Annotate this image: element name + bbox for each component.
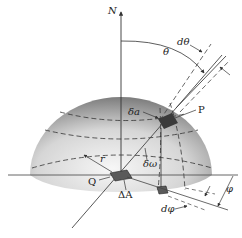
label-point-q: Q bbox=[88, 176, 96, 187]
label-north: N bbox=[107, 5, 118, 16]
label-delta-a: δa bbox=[128, 106, 140, 117]
label-delta-A: ΔA bbox=[118, 189, 133, 200]
d-theta-pointer-2 bbox=[220, 67, 230, 75]
label-d-phi: dφ bbox=[161, 203, 174, 214]
label-d-theta: dθ bbox=[177, 36, 189, 47]
azimuth-dashed-2 bbox=[185, 188, 215, 194]
label-phi: φ bbox=[226, 183, 233, 194]
label-theta: θ bbox=[163, 46, 169, 57]
d-phi-pointer bbox=[175, 206, 187, 209]
phi-tick-2 bbox=[205, 186, 210, 196]
hemisphere-diagram: N θ dθ δa P δω r Q ΔA φ dφ bbox=[0, 0, 242, 238]
ray-dashed-2 bbox=[180, 60, 230, 112]
d-theta-pointer bbox=[190, 45, 202, 52]
label-point-p: P bbox=[198, 104, 205, 115]
label-delta-omega: δω bbox=[143, 158, 157, 169]
p-pointer bbox=[175, 110, 196, 118]
ray-line-2 bbox=[176, 56, 226, 108]
